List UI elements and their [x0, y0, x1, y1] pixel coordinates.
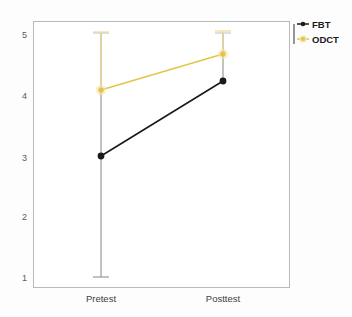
legend-item-odct[interactable]: ODCT [297, 34, 339, 45]
legend-item-fbt[interactable]: FBT [297, 19, 331, 30]
chart-figure: 5 4 3 2 1 [0, 0, 352, 317]
x-axis-label-pretest: Pretest [86, 293, 116, 304]
datapoint-odct-pretest[interactable] [98, 87, 103, 92]
y-axis-tick-5: 5 [22, 30, 27, 40]
y-axis-tick-1: 1 [22, 273, 27, 283]
x-axis-label-posttest: Posttest [206, 293, 241, 304]
legend-label-fbt: FBT [312, 19, 331, 30]
legend-label-odct: ODCT [312, 34, 339, 45]
y-axis-tick-2: 2 [22, 212, 27, 222]
datapoint-fbt-pretest[interactable] [98, 153, 105, 160]
y-axis-tick-4: 4 [22, 91, 27, 101]
line-chart-canvas: 5 4 3 2 1 [0, 0, 352, 317]
plot-frame [34, 22, 290, 288]
y-axis-tick-3: 3 [22, 153, 27, 163]
datapoint-odct-posttest[interactable] [220, 51, 225, 56]
chart-legend: FBT ODCT [294, 19, 339, 45]
datapoint-fbt-posttest[interactable] [220, 78, 227, 85]
legend-marker-odct-icon [301, 37, 305, 41]
legend-marker-fbt-icon [301, 22, 306, 27]
